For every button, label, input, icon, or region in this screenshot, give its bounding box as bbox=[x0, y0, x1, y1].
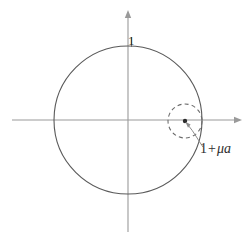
perturbation-label-one: 1 bbox=[200, 141, 207, 156]
perturbation-label: 1+μa bbox=[200, 142, 231, 156]
figure-canvas bbox=[0, 0, 252, 240]
figure-root: 1 1+μa bbox=[0, 0, 252, 240]
perturbation-label-a: a bbox=[224, 141, 231, 156]
perturbation-label-plus: + bbox=[207, 141, 217, 156]
real-axis-arrow-icon bbox=[234, 117, 242, 123]
real-axis bbox=[12, 117, 242, 123]
unit-tick-label: 1 bbox=[128, 34, 135, 47]
imaginary-axis-arrow-icon bbox=[125, 10, 131, 18]
perturbation-label-mu: μ bbox=[217, 141, 224, 156]
